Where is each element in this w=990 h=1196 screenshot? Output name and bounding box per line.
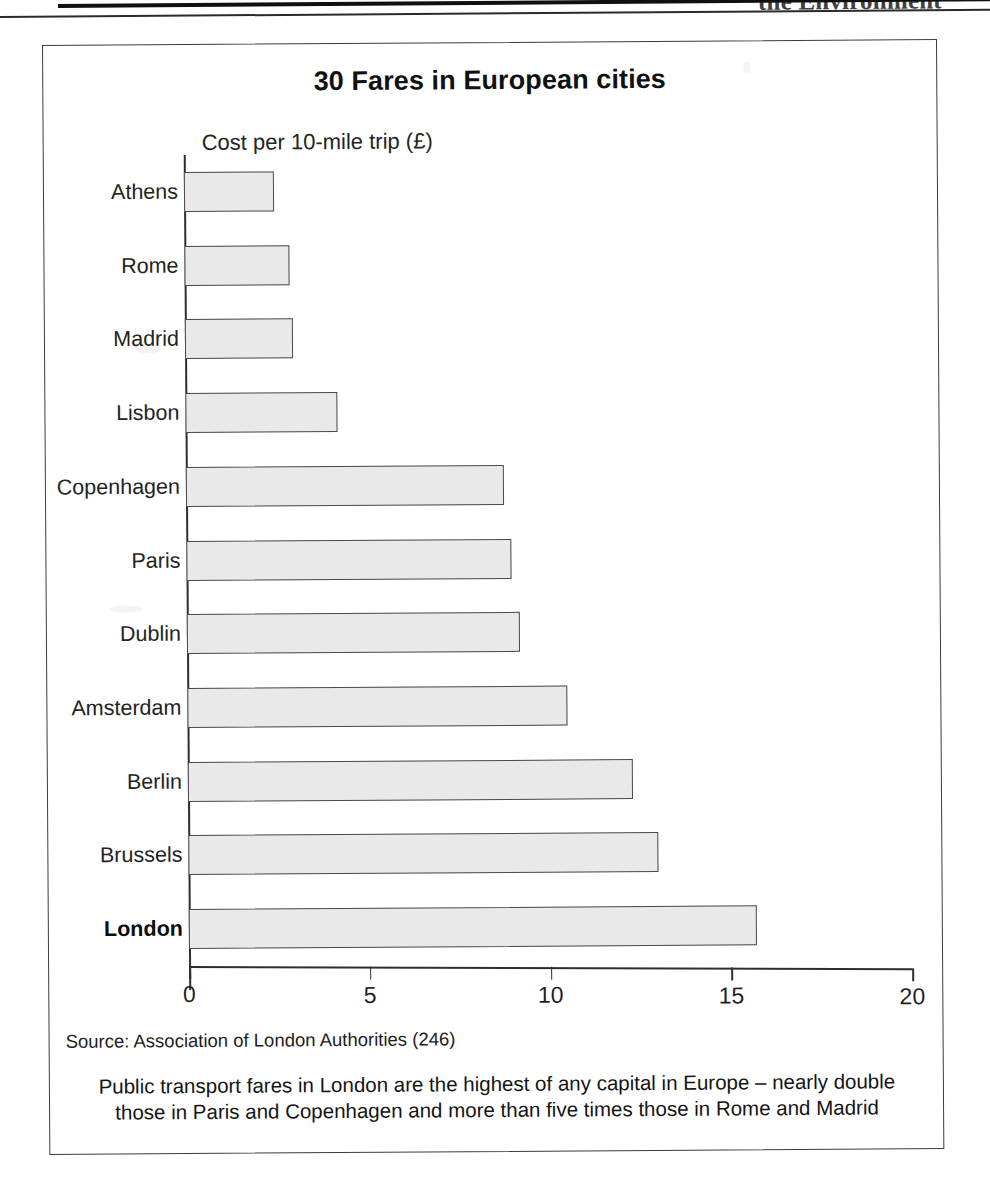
- x-tick-20: [912, 968, 914, 981]
- x-tick-15: [731, 968, 733, 981]
- bar-row: Dublin: [187, 612, 520, 654]
- bar-row: London: [189, 905, 757, 949]
- bar-row: Lisbon: [185, 392, 337, 433]
- bar-lisbon: [185, 392, 337, 433]
- bar-row: Madrid: [185, 319, 294, 360]
- chart-plot-area: Cost per 10-mile trip (£) AthensRomeMadr…: [43, 40, 943, 1154]
- bar-row: Brussels: [188, 832, 658, 875]
- bar-rome: [184, 245, 289, 286]
- x-tick-10: [551, 967, 553, 980]
- x-tick-label-20: 20: [899, 983, 925, 1010]
- x-tick-0: [189, 966, 191, 979]
- bar-label-lisbon: Lisbon: [116, 401, 180, 426]
- x-axis-title: Cost per 10-mile trip (£): [202, 128, 433, 156]
- bar-athens: [184, 171, 275, 212]
- bar-london: [189, 905, 757, 949]
- x-tick-label-15: 15: [719, 983, 745, 1010]
- x-tick-5: [370, 967, 372, 980]
- figure-frame: 30 Fares in European cities Cost per 10-…: [42, 39, 944, 1155]
- bar-label-brussels: Brussels: [100, 843, 183, 869]
- page-running-header: the Environment: [0, 0, 990, 34]
- x-tick-label-0: 0: [183, 981, 196, 1008]
- bar-label-dublin: Dublin: [120, 622, 181, 647]
- bar-paris: [186, 538, 512, 580]
- bar-label-paris: Paris: [131, 548, 180, 573]
- bar-copenhagen: [186, 465, 504, 507]
- bar-label-madrid: Madrid: [113, 327, 179, 352]
- bar-label-amsterdam: Amsterdam: [71, 696, 181, 722]
- x-tick-label-5: 5: [364, 982, 377, 1009]
- figure-caption: Public transport fares in London are the…: [72, 1068, 922, 1126]
- bar-berlin: [188, 759, 633, 802]
- bar-row: Berlin: [188, 759, 633, 802]
- bar-dublin: [187, 612, 520, 654]
- bar-label-berlin: Berlin: [127, 769, 182, 794]
- bar-label-rome: Rome: [121, 253, 179, 278]
- bar-row: Copenhagen: [186, 465, 504, 507]
- bar-row: Paris: [186, 538, 512, 580]
- bar-amsterdam: [187, 685, 567, 728]
- bar-brussels: [188, 832, 658, 875]
- bar-label-london: London: [104, 917, 183, 943]
- bar-row: Rome: [184, 245, 289, 286]
- bar-label-athens: Athens: [111, 179, 178, 204]
- bar-madrid: [185, 319, 294, 360]
- x-tick-label-10: 10: [538, 982, 564, 1009]
- source-note: Source: Association of London Authoritie…: [66, 1028, 456, 1053]
- bar-label-copenhagen: Copenhagen: [57, 474, 180, 500]
- bar-row: Amsterdam: [187, 685, 567, 728]
- bar-row: Athens: [184, 171, 275, 212]
